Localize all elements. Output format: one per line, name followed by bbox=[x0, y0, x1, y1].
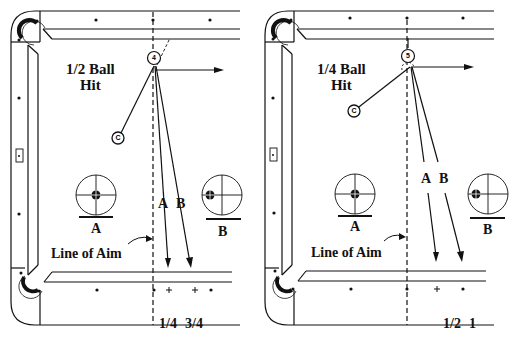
diagram-half-ball-hit: 1/2 Ball Hit 4 C A B A B Line of Aim 1/4… bbox=[0, 0, 258, 339]
path-b-label: B bbox=[176, 197, 185, 211]
path-b bbox=[445, 193, 461, 256]
pool-table-diagram bbox=[258, 0, 516, 339]
path-a-upper bbox=[411, 67, 424, 162]
cue-ball-label: C bbox=[112, 132, 124, 144]
shot-title-line2: Hit bbox=[66, 78, 115, 93]
arrow-icon bbox=[464, 64, 474, 70]
tip-a-label: A bbox=[91, 222, 101, 236]
bottom-label-2: 3/4 bbox=[185, 317, 203, 331]
pocket-icon bbox=[23, 277, 38, 291]
object-ball-number: 4 bbox=[148, 52, 160, 64]
arrow-icon bbox=[433, 252, 439, 262]
bottom-label-2: 1 bbox=[469, 317, 476, 331]
cue-ball-path bbox=[119, 66, 154, 137]
object-ball-number: 5 bbox=[402, 50, 414, 62]
tip-b-label: B bbox=[483, 223, 492, 237]
bottom-label-1: 1/4 bbox=[159, 317, 177, 331]
arrow-icon bbox=[214, 67, 224, 73]
pocket-icon bbox=[277, 277, 292, 291]
shot-title-line2: Hit bbox=[317, 78, 366, 93]
line-of-aim-label: Line of Aim bbox=[311, 246, 382, 260]
arrow-icon bbox=[457, 251, 464, 262]
bottom-label-1: 1/2 bbox=[443, 317, 461, 331]
path-b-upper bbox=[412, 67, 438, 162]
tip-a-label: A bbox=[350, 220, 360, 234]
shot-title-line1: 1/4 Ball bbox=[317, 62, 366, 77]
path-b-label: B bbox=[439, 172, 448, 186]
tip-b-label: B bbox=[218, 225, 227, 239]
line-of-aim-label: Line of Aim bbox=[51, 247, 122, 261]
cue-ball-label: C bbox=[348, 105, 360, 117]
path-a bbox=[428, 193, 436, 256]
shot-title: 1/4 Ball Hit bbox=[317, 62, 366, 93]
path-a-label: A bbox=[421, 172, 431, 186]
arrow-icon bbox=[186, 257, 193, 268]
path-a-label: A bbox=[158, 197, 168, 211]
shot-title-line1: 1/2 Ball bbox=[66, 62, 115, 77]
diagram-quarter-ball-hit: 1/4 Ball Hit 5 C A B A B Line of Aim 1/2… bbox=[258, 0, 516, 339]
arrow-icon bbox=[165, 258, 171, 268]
shot-title: 1/2 Ball Hit bbox=[66, 62, 115, 93]
pool-table-diagram bbox=[0, 0, 258, 339]
